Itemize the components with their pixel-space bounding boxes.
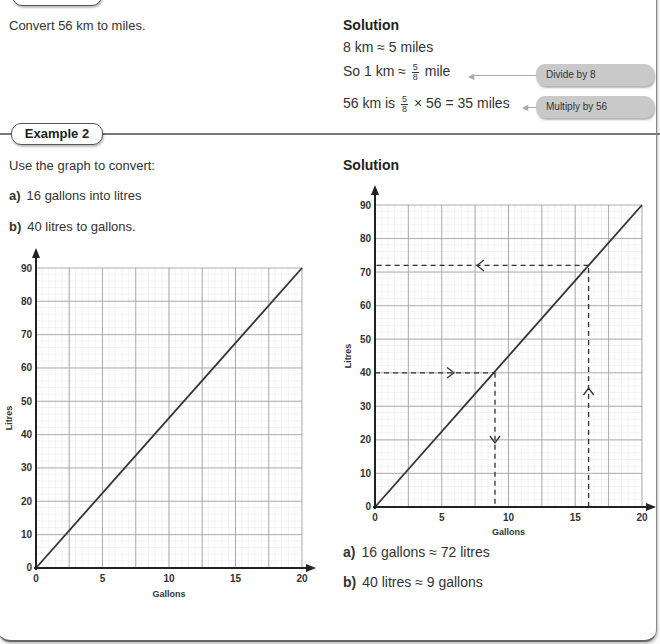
svg-text:20: 20 [360,434,372,445]
svg-text:10: 10 [503,512,515,523]
example1-line3: 56 km is 58 × 56 = 35 miles [343,95,510,114]
x-axis-label: Gallons [152,589,185,599]
x-axis-arrow-icon [306,564,316,572]
section-divider-right [102,133,660,135]
svg-text:20: 20 [636,512,648,523]
example2-part-a: a)16 gallons into litres [9,188,141,203]
svg-text:5: 5 [439,512,445,523]
example2-tab: Example 2 [11,123,103,145]
note-divide-by-8: Divide by 8 [536,64,654,86]
y-axis-label: Litres [4,406,14,431]
svg-text:90: 90 [21,263,33,274]
svg-text:20: 20 [296,573,308,584]
line3-prefix: 56 km is [343,95,395,111]
y-axis-arrow-icon [371,185,379,195]
svg-text:0: 0 [26,562,32,573]
arrow-line-1 [472,75,542,76]
svg-text:30: 30 [360,401,372,412]
line3-suffix: × 56 = 35 miles [414,95,510,111]
fraction: 58 [412,63,419,82]
conversion-graph-solution: 010 2030 4050 6070 8090 05 1015 20 Gallo… [330,185,660,540]
svg-text:0: 0 [372,512,378,523]
example1-tab [12,0,102,6]
y-tick-labels: 010 2030 4050 6070 8090 [360,200,372,512]
svg-text:80: 80 [21,296,33,307]
svg-text:50: 50 [360,334,372,345]
y-axis-label: Litres [343,344,353,369]
svg-text:0: 0 [365,501,371,512]
svg-text:70: 70 [21,329,33,340]
svg-text:60: 60 [21,362,33,373]
svg-text:15: 15 [570,512,582,523]
svg-text:10: 10 [360,468,372,479]
svg-text:30: 30 [21,462,33,473]
example1-question: Convert 56 km to miles. [9,18,146,33]
example1-line2: So 1 km ≈ 58 mile [343,63,450,82]
arrow-head-1: ◀ [468,72,474,81]
y-tick-labels: 010 2030 4050 6070 8090 [21,263,33,573]
svg-text:70: 70 [360,267,372,278]
example2-intro: Use the graph to convert: [9,158,155,173]
answer-b: b)40 litres ≈ 9 gallons [343,574,483,590]
x-axis-arrow-icon [646,503,656,511]
svg-text:80: 80 [360,233,372,244]
svg-text:50: 50 [21,396,33,407]
svg-text:15: 15 [230,573,242,584]
line2-suffix: mile [425,63,451,79]
example2-part-b: b)40 litres to gallons. [9,219,136,234]
y-axis-arrow-icon [32,248,40,258]
example1-line1: 8 km ≈ 5 miles [343,39,433,55]
svg-text:10: 10 [21,529,33,540]
svg-text:90: 90 [360,200,372,211]
svg-text:10: 10 [163,573,175,584]
fraction: 58 [401,95,408,114]
note-multiply-by-56: Multiply by 56 [536,96,654,118]
svg-text:5: 5 [100,573,106,584]
x-axis-label: Gallons [492,527,525,537]
svg-text:40: 40 [21,429,33,440]
x-tick-labels: 05 1015 20 [33,573,308,584]
example1-solution-heading: Solution [343,17,399,33]
x-tick-labels: 05 1015 20 [372,512,648,523]
conversion-graph-question: 010 2030 4050 6070 8090 05 1015 20 Gallo… [0,245,330,605]
answer-a: a)16 gallons ≈ 72 litres [343,544,490,560]
svg-text:60: 60 [360,300,372,311]
example2-solution-heading: Solution [343,157,399,173]
line2-prefix: So 1 km ≈ [343,63,406,79]
svg-text:0: 0 [33,573,39,584]
svg-text:20: 20 [21,496,33,507]
svg-text:40: 40 [360,367,372,378]
